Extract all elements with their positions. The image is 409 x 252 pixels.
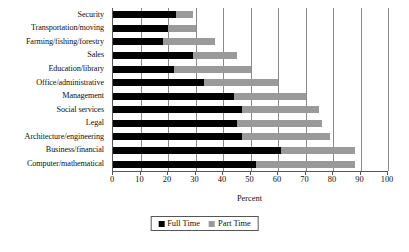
x-tick-label: 100 [381,176,394,184]
x-tick-label: 30 [190,176,198,184]
category-label: Security [0,8,108,22]
legend: Full TimePart Time [150,216,259,231]
bar-segment-part-time [174,66,251,73]
stacked-bar-chart: SecurityTransportation/movingFarming/fis… [0,0,409,252]
legend-label: Part Time [218,219,251,228]
legend-swatch-full-time [158,221,164,227]
category-label: Office/administrative [0,76,108,90]
bar-segment-part-time [193,52,237,59]
x-tick-label: 60 [273,176,281,184]
bar-segment-part-time [237,120,322,127]
bar-stack [113,147,388,154]
bar-stack [113,66,388,73]
bar-segment-part-time [242,133,330,140]
bar-row [113,103,388,117]
x-tick-label: 80 [328,176,336,184]
x-tick-label: 50 [245,176,253,184]
x-tick-label: 70 [300,176,308,184]
bar-stack [113,93,388,100]
bar-row [113,89,388,103]
bar-row [113,76,388,90]
bar-stack [113,25,388,32]
category-label: Social services [0,103,108,117]
bar-row [113,22,388,36]
category-axis-labels: SecurityTransportation/movingFarming/fis… [0,8,108,171]
bar-segment-part-time [176,11,193,18]
bar-stack [113,106,388,113]
bar-segment-full-time [113,120,237,127]
category-label: Architecture/engineering [0,130,108,144]
bar-segment-full-time [113,161,256,168]
x-tick-label: 10 [135,176,143,184]
bar-row [113,144,388,158]
bar-segment-full-time [113,93,234,100]
bar-stack [113,133,388,140]
gridline [388,8,389,171]
legend-swatch-part-time [209,221,215,227]
bar-row [113,49,388,63]
category-label: Transportation/moving [0,22,108,36]
bar-segment-full-time [113,133,242,140]
bar-segment-full-time [113,11,176,18]
legend-item: Full Time [158,219,200,228]
bar-stack [113,120,388,127]
bar-row [113,157,388,171]
bar-stack [113,52,388,59]
bar-row [113,62,388,76]
category-label: Sales [0,49,108,63]
x-tick-label: 40 [218,176,226,184]
bar-segment-full-time [113,25,168,32]
category-label: Legal [0,117,108,131]
bar-segment-part-time [168,25,196,32]
bar-segment-full-time [113,66,174,73]
category-label: Computer/mathematical [0,157,108,171]
bar-stack [113,79,388,86]
legend-label: Full Time [167,219,200,228]
x-tick-label: 0 [110,176,114,184]
category-label: Management [0,89,108,103]
bar-segment-part-time [281,147,355,154]
category-label: Business/financial [0,144,108,158]
bar-segment-full-time [113,147,281,154]
x-axis-ticks: 0102030405060708090100 [112,172,387,184]
bar-segment-full-time [113,106,242,113]
category-label: Education/library [0,62,108,76]
bar-row [113,8,388,22]
bar-segment-full-time [113,79,204,86]
bar-row [113,117,388,131]
x-axis-title: Percent [112,194,387,203]
plot-area [112,8,388,171]
bar-segment-part-time [204,79,278,86]
category-label: Farming/fishing/forestry [0,35,108,49]
bar-segment-full-time [113,52,193,59]
legend-item: Part Time [209,219,251,228]
bar-row [113,130,388,144]
x-tick-label: 90 [355,176,363,184]
bar-segment-full-time [113,38,163,45]
bar-segment-part-time [256,161,355,168]
bar-segment-part-time [163,38,215,45]
bar-row [113,35,388,49]
bar-rows [113,8,388,171]
x-tick-label: 20 [163,176,171,184]
bar-segment-part-time [234,93,306,100]
bar-stack [113,38,388,45]
bar-segment-part-time [242,106,319,113]
bar-stack [113,161,388,168]
bar-stack [113,11,388,18]
